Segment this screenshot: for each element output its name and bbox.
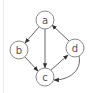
node-label-d: d [72,43,78,54]
node-c: c [36,68,54,86]
diagram-frame: — — — a b c d [0,0,91,93]
directed-graph: a b c d [0,0,91,93]
node-b: b [10,41,28,59]
node-label-b: b [16,45,22,56]
node-d: d [66,39,84,57]
edge-b-to-c [25,57,38,71]
edge-a-to-b [25,27,39,43]
node-a: a [36,11,54,29]
node-label-a: a [42,15,48,26]
edge-d-to-a [52,25,69,41]
edge-d-to-c-curved [54,56,79,80]
edge-c-to-d [51,55,68,70]
node-label-c: c [42,72,48,83]
